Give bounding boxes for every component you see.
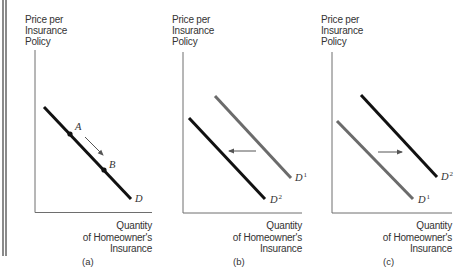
curve-d2-label: D2 xyxy=(270,193,282,205)
curve-d-label: D xyxy=(135,193,143,204)
curve-d1-sup: 1 xyxy=(304,171,308,179)
y-label-line-3: Policy xyxy=(25,36,67,47)
curve-d2-label: D2 xyxy=(441,170,453,182)
curve-d2-name: D xyxy=(270,194,278,205)
demand-curve-d2 xyxy=(189,118,265,199)
x-label-line-3: Insurance xyxy=(383,243,452,255)
curve-d2-sup: 2 xyxy=(279,193,283,201)
panel-a-axes xyxy=(35,50,152,213)
demand-curve-diagram: Price per Insurance Policy A B D Quantit… xyxy=(0,0,466,279)
panel-c-x-axis-label: Quantity of Homeowner's Insurance xyxy=(383,220,452,255)
point-a-marker xyxy=(67,131,72,136)
point-b-marker xyxy=(101,167,106,172)
curve-d1-name: D xyxy=(295,172,303,183)
curve-d2-name: D xyxy=(441,171,449,182)
x-label-line-2: of Homeowner's xyxy=(233,232,302,244)
y-label-line-3: Policy xyxy=(321,36,363,47)
demand-curve-d1 xyxy=(215,96,291,178)
x-label-line-2: of Homeowner's xyxy=(383,232,452,244)
point-a-label: A xyxy=(75,121,81,132)
x-label-line-1: Quantity xyxy=(83,220,152,232)
demand-curve-d1 xyxy=(337,121,413,199)
panel-b-curves xyxy=(189,96,291,199)
panel-a-y-axis-label: Price per Insurance Policy xyxy=(25,14,67,47)
y-label-line-1: Price per xyxy=(172,14,214,25)
panel-a-caption: (a) xyxy=(82,256,94,267)
y-label-line-1: Price per xyxy=(25,14,67,25)
x-label-line-3: Insurance xyxy=(233,243,302,255)
panel-b-x-axis-label: Quantity of Homeowner's Insurance xyxy=(233,220,302,255)
panel-c-y-axis-label: Price per Insurance Policy xyxy=(321,14,363,47)
x-label-line-1: Quantity xyxy=(383,220,452,232)
panel-a-curves xyxy=(44,107,131,199)
demand-curve-d xyxy=(44,107,131,199)
y-label-line-2: Insurance xyxy=(25,25,67,36)
panel-b-y-axis-label: Price per Insurance Policy xyxy=(172,14,214,47)
x-label-line-2: of Homeowner's xyxy=(83,232,152,244)
x-label-line-1: Quantity xyxy=(233,220,302,232)
panel-a-x-axis-label: Quantity of Homeowner's Insurance xyxy=(83,220,152,255)
curve-d2-sup: 2 xyxy=(450,170,454,178)
y-label-line-1: Price per xyxy=(321,14,363,25)
y-label-line-2: Insurance xyxy=(321,25,363,36)
y-label-line-3: Policy xyxy=(172,36,214,47)
curve-d-name: D xyxy=(135,193,143,204)
curve-d1-name: D xyxy=(418,194,426,205)
panel-c-caption: (c) xyxy=(383,256,394,267)
curve-d1-sup: 1 xyxy=(427,193,431,201)
demand-curve-d2 xyxy=(361,95,437,177)
curve-d1-label: D1 xyxy=(295,171,307,183)
curve-d1-label: D1 xyxy=(418,193,430,205)
x-label-line-3: Insurance xyxy=(83,243,152,255)
panel-b-caption: (b) xyxy=(233,256,245,267)
y-label-line-2: Insurance xyxy=(172,25,214,36)
panel-c-curves xyxy=(337,95,437,199)
point-b-label: B xyxy=(109,159,115,170)
